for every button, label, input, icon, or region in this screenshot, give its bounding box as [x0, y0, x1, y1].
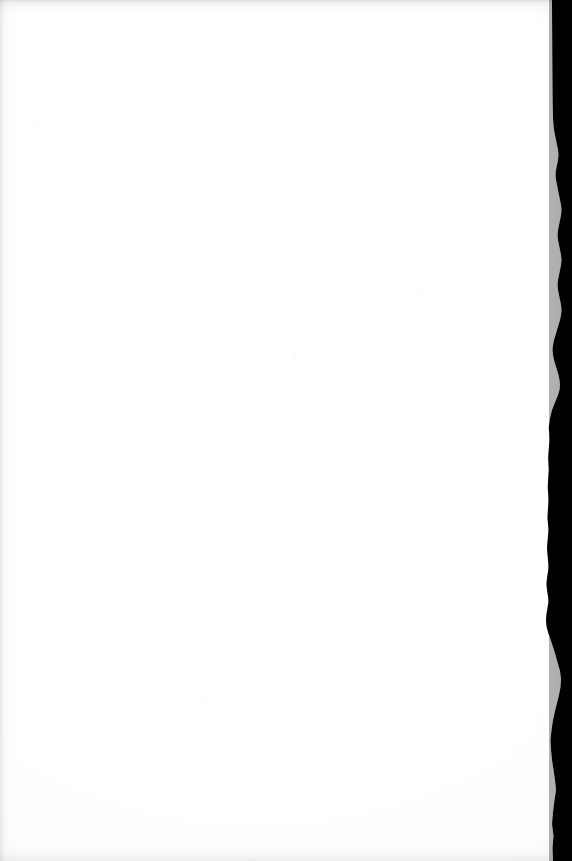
scanned-page	[0, 0, 572, 861]
paper-surface	[0, 0, 572, 861]
